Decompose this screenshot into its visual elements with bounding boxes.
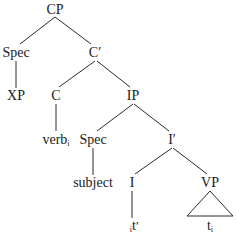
edge-c-bar-ip <box>97 61 130 87</box>
node-xp: XP <box>7 89 25 103</box>
node-label: CP <box>46 2 63 17</box>
node-i-bar: I′ <box>168 133 176 147</box>
node-label: C <box>51 88 60 103</box>
edge-cp-c-bar <box>55 17 91 44</box>
node-label: Spec <box>2 45 29 60</box>
node-label: VP <box>201 175 219 190</box>
node-subscript: i <box>211 225 213 234</box>
node-prime: ′ <box>136 218 139 233</box>
node-label: I <box>130 175 135 190</box>
edge-ip-spec-ip <box>97 104 133 131</box>
node-verb: verbi <box>42 133 69 148</box>
node-subscript: i <box>67 139 69 148</box>
edge-cp-spec-cp <box>20 17 55 44</box>
node-cp: CP <box>46 3 63 17</box>
node-label: I′ <box>168 132 176 147</box>
syntax-tree: CPSpecXPC′CverbiIPSpecsubjectI′It′iVPti <box>0 0 236 237</box>
node-label: verb <box>42 132 67 147</box>
node-label: C′ <box>89 45 101 60</box>
node-subject: subject <box>73 176 113 190</box>
edge-c-bar-c <box>59 61 95 87</box>
node-spec-cp: Spec <box>2 46 29 60</box>
node-label: IP <box>127 88 139 103</box>
edge-i-bar-vp <box>173 148 207 174</box>
node-ip: IP <box>127 89 139 103</box>
node-label: subject <box>73 175 113 190</box>
node-c-bar: C′ <box>89 46 101 60</box>
node-label: XP <box>7 88 25 103</box>
node-vp: VP <box>201 176 219 190</box>
vp-triangle <box>187 191 233 216</box>
tree-edges <box>0 0 236 237</box>
node-c: C <box>51 89 60 103</box>
edge-ip-i-bar <box>134 104 169 131</box>
edge-i-bar-i <box>135 148 172 174</box>
node-subscript: i <box>130 225 132 234</box>
node-label: Spec <box>79 132 106 147</box>
node-t: ti <box>207 219 213 234</box>
node-spec-ip: Spec <box>79 133 106 147</box>
node-i: I <box>130 176 135 190</box>
